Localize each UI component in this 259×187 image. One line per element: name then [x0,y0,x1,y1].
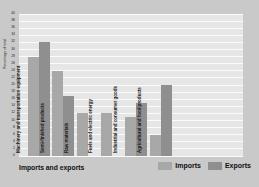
legend-entry-exports: Exports [208,162,251,170]
category-label: Semi-finished products [40,103,45,153]
y-axis-tick-label: 6 [13,133,15,136]
gridline [19,56,243,57]
gridline [19,28,243,29]
plot-area: Machinery and transportation equipmentSe… [19,14,243,156]
legend-swatch-imports [158,162,172,170]
y-axis-tick-label: 20 [11,83,15,86]
bar-imports [101,113,112,156]
legend-label-imports: Imports [175,162,201,170]
gridline [19,42,243,43]
bar-imports [77,113,88,156]
y-axis-tick-label: 30 [11,48,15,51]
legend-label-exports: Exports [225,162,251,170]
category-label: Machinery and transportation equipment [16,66,21,153]
legend-swatch-exports [208,162,222,170]
y-axis-tick-label: 32 [11,41,15,44]
gridline [19,21,243,22]
y-axis-tick-label: 2 [13,147,15,150]
legend-entry-imports: Imports [158,162,201,170]
category-label: Industrial and consumer goods [113,86,118,153]
gridline [19,63,243,64]
y-axis-tick-label: 40 [11,12,15,15]
y-axis-tick-label: 38 [11,19,15,22]
y-axis-tick-label: 18 [11,90,15,93]
y-axis-tick-label: 10 [11,119,15,122]
category-label: Agricultural and food products [137,87,142,153]
y-axis-tick-label: 36 [11,26,15,29]
category-label: Raw materials [64,123,69,153]
y-axis-tick-label: 12 [11,112,15,115]
bar-imports [150,135,161,156]
y-axis-tick-label: 4 [13,140,15,143]
chart-figure: Percentage of total 02468101214161820222… [0,0,259,187]
y-axis-tick-label: 24 [11,69,15,72]
y-axis-tick-label: 8 [13,126,15,129]
bar-exports [161,85,172,156]
y-axis-tick-label: 28 [11,55,15,58]
chart-title: Imports and exports [19,164,84,172]
y-axis-tick-labels: 0246810121416182022242628303234363840 [0,14,17,156]
bar-imports [28,57,39,156]
gridline [19,14,243,15]
legend: Imports Exports [158,162,251,170]
y-axis-tick-label: 34 [11,34,15,37]
y-axis-tick-label: 14 [11,105,15,108]
y-axis-tick-label: 26 [11,62,15,65]
gridline [19,49,243,50]
bar-imports [52,71,63,156]
y-axis-tick-label: 22 [11,76,15,79]
gridline [19,35,243,36]
y-axis-tick-label: 16 [11,97,15,100]
bar-imports [125,117,136,156]
category-label: Fuels and electric energy [88,99,93,153]
chart-footer: Imports and exports Imports Exports [0,158,259,187]
